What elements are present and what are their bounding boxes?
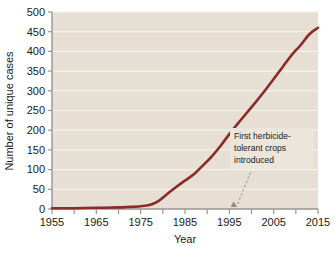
y-tick-label: 300 [27,85,45,97]
annotation-line-1: First herbicide- [234,131,291,141]
y-tick-label: 200 [27,124,45,136]
x-axis-ticks: 1955196519751985199520052015 [40,209,330,228]
y-tick-label: 250 [27,104,45,116]
y-tick-label: 450 [27,26,45,38]
y-tick-label: 350 [27,65,45,77]
line-chart: 050100150200250300350400450500 195519651… [0,0,335,254]
x-tick-label: 1955 [40,216,64,228]
y-tick-label: 150 [27,144,45,156]
y-axis-ticks: 050100150200250300350400450500 [27,6,52,215]
x-tick-label: 2015 [306,216,330,228]
annotation-line-2: tolerant crops [234,143,286,153]
x-axis-title: Year [174,233,197,245]
y-tick-label: 500 [27,6,45,18]
y-axis-title: Number of unique cases [3,51,15,171]
y-tick-label: 0 [39,203,45,215]
y-tick-label: 400 [27,45,45,57]
x-tick-label: 1975 [128,216,152,228]
annotation-line-3: introduced [234,155,274,165]
x-tick-label: 2005 [261,216,285,228]
x-tick-label: 1965 [84,216,108,228]
chart-container: 050100150200250300350400450500 195519651… [0,0,335,254]
y-tick-label: 100 [27,163,45,175]
x-tick-label: 1985 [173,216,197,228]
y-tick-label: 50 [33,183,45,195]
x-tick-label: 1995 [217,216,241,228]
